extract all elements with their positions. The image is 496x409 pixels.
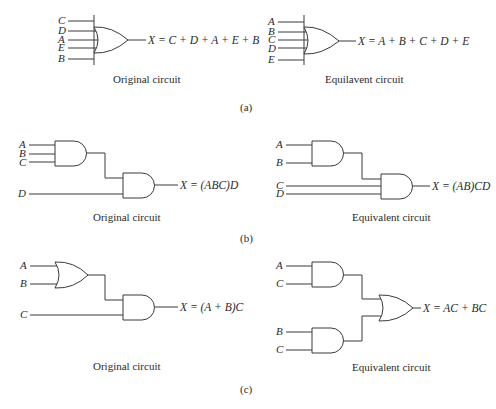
and-gate-icon xyxy=(381,174,413,199)
panel-b-original: A B C D X = (ABC)D Original circuit xyxy=(17,138,239,223)
and-gate-icon xyxy=(55,141,87,166)
output-equation: X = A + B + C + D + E xyxy=(357,35,469,47)
and-gate-icon xyxy=(312,141,344,166)
logic-diagram: C D A E B X = C + D + A + E + B Original… xyxy=(0,0,496,409)
panel-label-a: (a) xyxy=(240,101,253,114)
input-label: B xyxy=(58,52,65,64)
panel-c-equivalent: A C B C X = AC + BC Equivalent circuit xyxy=(275,259,487,373)
input-label: A xyxy=(275,138,283,150)
input-label: B xyxy=(20,277,27,289)
input-label: C xyxy=(276,277,284,289)
caption: Original circuit xyxy=(93,211,161,223)
panel-a-original: C D A E B X = C + D + A + E + B Original… xyxy=(57,14,259,85)
panel-label-c: (c) xyxy=(240,383,253,396)
output-equation: X = (AB)CD xyxy=(431,180,491,193)
input-label: E xyxy=(267,53,275,65)
or-gate-icon xyxy=(304,27,339,54)
input-label: B xyxy=(276,156,283,168)
caption: Original circuit xyxy=(93,360,161,372)
input-label: D xyxy=(275,187,284,199)
input-label: C xyxy=(276,343,284,355)
or-gate-icon xyxy=(94,27,128,53)
input-label: A xyxy=(275,259,283,271)
input-label: D xyxy=(17,187,26,199)
caption: Equilavent circuit xyxy=(325,73,404,85)
output-equation: X = (ABC)D xyxy=(179,179,239,192)
input-label: A xyxy=(19,259,27,271)
and-gate-icon xyxy=(312,328,344,353)
input-label: C xyxy=(20,308,28,320)
and-gate-icon xyxy=(312,262,344,287)
input-label: C xyxy=(19,156,27,168)
panel-b-equivalent: A B C D X = (AB)CD Equivalent circuit xyxy=(275,138,491,223)
panel-label-b: (b) xyxy=(240,232,253,245)
and-gate-icon xyxy=(123,295,154,320)
or-gate-icon xyxy=(379,295,413,321)
and-gate-icon xyxy=(123,173,154,198)
output-equation: X = AC + BC xyxy=(422,302,487,314)
output-equation: X = C + D + A + E + B xyxy=(147,34,259,46)
or-gate-icon xyxy=(55,262,88,288)
output-equation: X = (A + B)C xyxy=(179,301,244,314)
caption: Equivalent circuit xyxy=(352,361,431,373)
panel-c-original: A B C X = (A + B)C Original circuit xyxy=(19,259,244,372)
caption: Original circuit xyxy=(113,73,181,85)
input-label: B xyxy=(276,325,283,337)
panel-a-equivalent: A B C D E X = A + B + C + D + E Equilave… xyxy=(267,15,469,85)
caption: Equivalent circuit xyxy=(352,211,431,223)
